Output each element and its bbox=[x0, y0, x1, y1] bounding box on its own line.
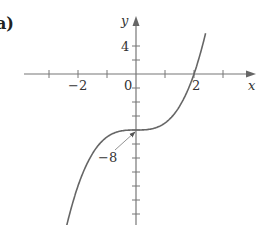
tick-labels: −2024 bbox=[68, 39, 200, 93]
x-tick-label: 2 bbox=[192, 78, 200, 93]
y-tick-label: 4 bbox=[121, 39, 129, 54]
y-axis-arrow-icon bbox=[133, 16, 140, 26]
x-axis-label: x bbox=[248, 78, 256, 93]
axes bbox=[24, 16, 256, 225]
annotation-minus-8: −8 bbox=[98, 132, 135, 165]
x-tick-label: 0 bbox=[124, 78, 132, 93]
annotation-arrow-icon bbox=[115, 132, 135, 150]
annotation-label: −8 bbox=[98, 150, 117, 165]
y-axis-label: y bbox=[120, 13, 129, 28]
x-axis-arrow-icon bbox=[246, 71, 256, 78]
cubic-function-plot: −2024 −8 x y bbox=[0, 0, 263, 225]
x-tick-label: −2 bbox=[68, 78, 87, 93]
